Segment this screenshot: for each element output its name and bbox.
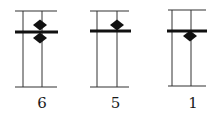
diamond-icon [33, 33, 47, 44]
figure-2: 5 [90, 11, 131, 112]
diamond-icon [33, 20, 47, 31]
figure-label: 1 [188, 94, 198, 112]
figure-label: 6 [37, 94, 47, 112]
diamond-icon [110, 20, 124, 31]
figure-1: 6 [15, 11, 58, 112]
figure-label: 5 [111, 94, 121, 112]
diagram-canvas: 651 [0, 0, 213, 117]
figure-3: 1 [167, 10, 207, 112]
